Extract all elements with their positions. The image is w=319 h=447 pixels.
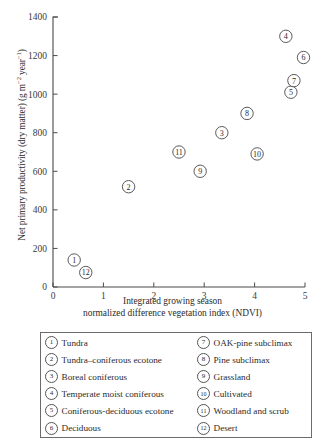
data-point-3: 3 [216,127,228,139]
legend-item-label: Grassland [214,372,251,382]
legend-item-oak-pine-subclimax[interactable]: 7OAK-pine subclimax [197,334,317,351]
legend-grid: 1Tundra7OAK-pine subclimax2Tundra–conife… [41,333,311,437]
legend-item-boreal-coniferous[interactable]: 3Boreal coniferous [45,368,197,385]
y-tick-label: 800 [33,128,48,138]
data-point-6: 6 [297,51,309,63]
legend-item-tundra[interactable]: 1Tundra [45,334,197,351]
figure-npp-vs-ndvi: Net primary productivity (dry matter) (g… [0,0,319,447]
data-point-5: 5 [285,86,297,98]
legend-item-desert[interactable]: 12Desert [197,419,317,436]
data-point-number: 6 [301,53,305,62]
data-point-number: 8 [245,109,249,118]
legend-number-badge: 5 [45,404,58,417]
data-point-number: 7 [292,77,296,86]
data-point-number: 2 [127,183,131,192]
data-point-7: 7 [288,74,300,86]
legend-item-label: OAK-pine subclimax [214,338,293,348]
legend-item-label: Pine subclimax [214,355,270,365]
legend-item-label: Boreal coniferous [62,372,128,382]
data-point-number: 1 [72,256,76,265]
legend-item-grassland[interactable]: 9Grassland [197,368,317,385]
x-axis-title: Integrated growing season normalized dif… [30,296,315,319]
y-tick-label: 400 [33,205,48,215]
y-tick-label: 1200 [28,51,47,61]
legend-number-badge: 6 [45,422,58,435]
x-axis-title-line-1: Integrated growing season [30,296,315,308]
data-points-group: 123456789101112 [68,30,310,279]
legend-item-label: Woodland and scrub [214,406,289,416]
legend-item-label: Tundra–coniferous ecotone [62,355,162,365]
legend-number-badge: 3 [45,370,58,383]
data-point-number: 5 [289,88,293,97]
legend-item-label: Tundra [62,338,88,348]
x-axis-title-line-2: normalized difference vegetation index (… [30,308,315,320]
legend-item-pine-subclimax[interactable]: 8Pine subclimax [197,351,317,368]
legend-item-temperate-moist-coniferous[interactable]: 4Temperate moist coniferous [45,385,197,402]
data-point-number: 3 [220,129,224,138]
data-point-8: 8 [241,107,253,119]
legend-number-badge: 8 [197,353,210,366]
legend-number-badge: 10 [197,387,210,400]
data-point-number: 10 [253,150,261,159]
data-point-number: 11 [175,148,183,157]
data-point-number: 4 [284,32,288,41]
legend-item-woodland-and-scrub[interactable]: 11Woodland and scrub [197,402,317,419]
legend-number-badge: 1 [45,336,58,349]
legend-item-tundra-coniferous-ecotone[interactable]: 2Tundra–coniferous ecotone [45,351,197,368]
data-point-number: 12 [82,268,90,277]
legend-number-badge: 11 [197,404,210,417]
data-point-10: 10 [251,148,263,160]
legend-number-badge: 12 [197,422,210,435]
legend-number-badge: 7 [197,336,210,349]
legend-number-badge: 4 [45,387,58,400]
legend-item-label: Desert [214,423,238,433]
chart-area: Net primary productivity (dry matter) (g… [0,0,319,300]
data-point-number: 9 [198,167,202,176]
data-point-4: 4 [280,30,292,42]
legend-item-deciduous[interactable]: 6Deciduous [45,419,197,436]
legend-number-badge: 9 [197,370,210,383]
legend-item-cultivated[interactable]: 10Cultivated [197,385,317,402]
legend-item-label: Cultivated [214,389,252,399]
data-point-11: 11 [173,146,185,158]
legend-item-coniferous-deciduous-ecotone[interactable]: 5Coniferous-deciduous ecotone [45,402,197,419]
scatter-plot-svg: 0200400600800100012001400 012345 1234567… [0,0,319,300]
legend-item-label: Coniferous-deciduous ecotone [62,406,174,416]
data-point-9: 9 [194,165,206,177]
y-tick-label: 1000 [28,90,47,100]
data-point-2: 2 [122,181,134,193]
y-tick-label: 0 [42,282,47,292]
y-tick-label: 1400 [28,12,47,22]
legend-number-badge: 2 [45,353,58,366]
data-point-12: 12 [80,266,92,278]
legend-item-label: Temperate moist coniferous [62,389,164,399]
legend-item-label: Deciduous [62,423,101,433]
data-point-1: 1 [68,254,80,266]
y-tick-label: 200 [33,244,48,254]
y-axis-line [53,17,58,287]
legend-box: 1Tundra7OAK-pine subclimax2Tundra–conife… [40,332,312,438]
y-tick-label: 600 [33,167,48,177]
